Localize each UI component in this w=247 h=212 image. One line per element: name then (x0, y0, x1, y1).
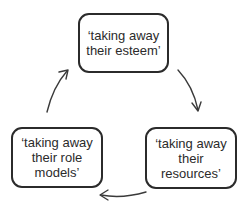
arrow-top-to-right (178, 70, 201, 111)
arrow-right-to-left (100, 190, 146, 200)
node-label: ‘taking away their resources’ (155, 136, 227, 181)
node-taking-away-resources: ‘taking away their resources’ (145, 127, 237, 189)
node-taking-away-role-models: ‘taking away their role models’ (11, 127, 103, 188)
node-taking-away-esteem: ‘taking away their esteem’ (78, 13, 169, 73)
node-label: ‘taking away their role models’ (21, 135, 93, 180)
cycle-diagram: ‘taking away their esteem’ ‘taking away … (0, 0, 247, 212)
node-label: ‘taking away their esteem’ (86, 28, 160, 58)
arrow-left-to-top (47, 70, 68, 112)
